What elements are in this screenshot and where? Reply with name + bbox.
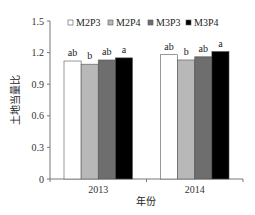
bars: abbabaabbaba bbox=[64, 38, 229, 179]
legend-label: M2P4 bbox=[116, 17, 140, 28]
x-tick-label: 2013 bbox=[88, 184, 108, 195]
legend-swatch bbox=[68, 20, 73, 25]
significance-label: b bbox=[184, 46, 189, 57]
x-tick-label: 2014 bbox=[185, 184, 205, 195]
y-tick-label: 0 bbox=[39, 174, 44, 185]
y-axis-title: 土地当量比 bbox=[9, 75, 21, 125]
significance-label: ab bbox=[68, 47, 77, 58]
legend-label: M3P4 bbox=[194, 17, 218, 28]
bar-m3p4-2013 bbox=[115, 58, 132, 179]
bar-m2p4-2014 bbox=[178, 60, 195, 179]
legend-label: M2P3 bbox=[76, 17, 100, 28]
bar-m3p3-2014 bbox=[195, 57, 212, 179]
bar-m2p3-2013 bbox=[64, 61, 81, 179]
y-tick-label: 0.6 bbox=[32, 110, 45, 121]
significance-label: ab bbox=[164, 41, 173, 52]
y-tick-label: 0.9 bbox=[32, 79, 45, 90]
significance-label: a bbox=[218, 38, 223, 49]
legend-label: M3P3 bbox=[156, 17, 180, 28]
x-axis: 20132014 bbox=[50, 179, 243, 195]
bar-m2p3-2014 bbox=[161, 55, 178, 179]
y-tick-label: 1.5 bbox=[32, 16, 45, 27]
legend-swatch bbox=[186, 20, 191, 25]
bar-chart: 00.30.60.91.21.5 20132014 abbabaabbaba M… bbox=[0, 0, 255, 215]
significance-label: a bbox=[122, 44, 127, 55]
bar-m3p3-2013 bbox=[98, 60, 115, 179]
legend: M2P3M2P4M3P3M3P4 bbox=[68, 17, 218, 28]
significance-label: b bbox=[87, 50, 92, 61]
legend-swatch bbox=[108, 20, 113, 25]
y-axis: 00.30.60.91.21.5 bbox=[32, 16, 51, 185]
y-tick-label: 0.3 bbox=[32, 142, 45, 153]
x-axis-title: 年份 bbox=[136, 195, 156, 207]
y-tick-label: 1.2 bbox=[32, 47, 45, 58]
significance-label: ab bbox=[199, 43, 208, 54]
legend-swatch bbox=[148, 20, 153, 25]
bar-m2p4-2013 bbox=[81, 64, 98, 179]
significance-label: ab bbox=[102, 46, 111, 57]
bar-m3p4-2014 bbox=[212, 52, 229, 179]
